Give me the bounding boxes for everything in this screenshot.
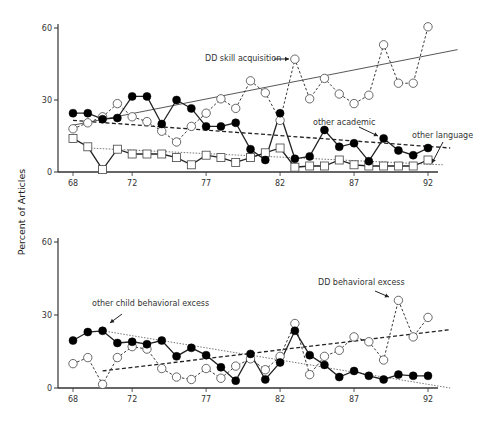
data-point (350, 367, 358, 375)
data-point (261, 156, 269, 164)
data-point (424, 156, 432, 164)
data-point (217, 95, 225, 103)
data-point (217, 122, 225, 130)
data-point (276, 144, 284, 152)
data-point (113, 339, 121, 347)
data-point (143, 150, 151, 158)
data-point (84, 143, 92, 151)
data-point (143, 92, 151, 100)
data-point (217, 374, 225, 382)
data-point (202, 364, 210, 372)
data-point (409, 333, 417, 341)
data-point (394, 79, 402, 87)
data-point (335, 373, 343, 381)
data-point (291, 55, 299, 63)
data-point (261, 375, 269, 383)
data-point (113, 145, 121, 153)
annotation-label: DD skill acquisition (205, 54, 281, 63)
data-point (113, 114, 121, 122)
data-point (424, 23, 432, 31)
data-point (99, 327, 107, 335)
y-tick-label: 0 (47, 384, 52, 393)
data-point (128, 92, 136, 100)
data-point (172, 138, 180, 146)
data-point (350, 161, 358, 169)
data-point (350, 99, 358, 107)
data-point (247, 350, 255, 358)
annotation-label: other language (412, 131, 473, 140)
annotation-label: other child behavioral excess (92, 299, 209, 308)
data-point (187, 122, 195, 130)
data-point (261, 89, 269, 97)
data-point (291, 163, 299, 171)
x-tick-label: 82 (275, 395, 285, 404)
data-point (365, 157, 373, 165)
data-point (69, 109, 77, 117)
data-point (380, 134, 388, 142)
data-point (202, 351, 210, 359)
data-point (69, 134, 77, 142)
data-point (187, 375, 195, 383)
x-tick-label: 92 (423, 395, 433, 404)
data-point (173, 352, 181, 360)
data-point (69, 337, 77, 345)
data-point (335, 90, 343, 98)
y-tick-label: 60 (42, 238, 52, 247)
data-point (143, 340, 151, 348)
data-point (113, 99, 121, 107)
data-point (365, 91, 373, 99)
data-point (202, 109, 210, 117)
data-point (232, 377, 240, 385)
data-point (320, 74, 328, 82)
data-point (394, 146, 402, 154)
data-point (365, 372, 373, 380)
x-tick-label: 68 (68, 395, 78, 404)
data-point (305, 370, 313, 378)
y-tick-label: 30 (42, 96, 52, 105)
bottom-chart-panel: 03060687277828792other child behavioral … (42, 238, 450, 404)
chart-figure: Percent of Articles 03060687277828792DD … (0, 0, 477, 428)
data-point (158, 127, 166, 135)
data-point (202, 122, 210, 130)
data-point (247, 154, 255, 162)
x-tick-label: 92 (423, 179, 433, 188)
data-point (247, 145, 255, 153)
data-point (84, 328, 92, 336)
data-point (202, 151, 210, 159)
data-point (379, 41, 387, 49)
data-point (173, 96, 181, 104)
data-point (261, 149, 269, 157)
x-tick-label: 87 (349, 179, 359, 188)
data-point (187, 344, 195, 352)
data-point (99, 166, 107, 174)
data-point (143, 117, 151, 125)
annotation-label: other academic (313, 118, 375, 127)
data-point (320, 162, 328, 170)
data-point (306, 152, 314, 160)
annotation-label: DD behavioral excess (318, 278, 405, 287)
data-point (276, 109, 284, 117)
top-chart-panel: 03060687277828792DD skill acquisitionoth… (42, 23, 473, 188)
data-point (350, 333, 358, 341)
data-point (99, 115, 107, 123)
y-tick-label: 30 (42, 311, 52, 320)
x-tick-label: 77 (201, 179, 211, 188)
data-point (291, 319, 299, 327)
data-point (394, 371, 402, 379)
data-point (158, 120, 166, 128)
data-point (128, 113, 136, 121)
x-tick-label: 72 (127, 179, 137, 188)
data-point (320, 361, 328, 369)
data-point (305, 95, 313, 103)
data-point (424, 144, 432, 152)
data-point (69, 359, 77, 367)
data-point (98, 380, 106, 388)
data-point (320, 352, 328, 360)
data-point (335, 156, 343, 164)
data-point (69, 125, 77, 133)
x-tick-label: 82 (275, 179, 285, 188)
data-point (276, 116, 284, 124)
data-point (84, 109, 92, 117)
data-point (217, 154, 225, 162)
data-point (394, 296, 402, 304)
